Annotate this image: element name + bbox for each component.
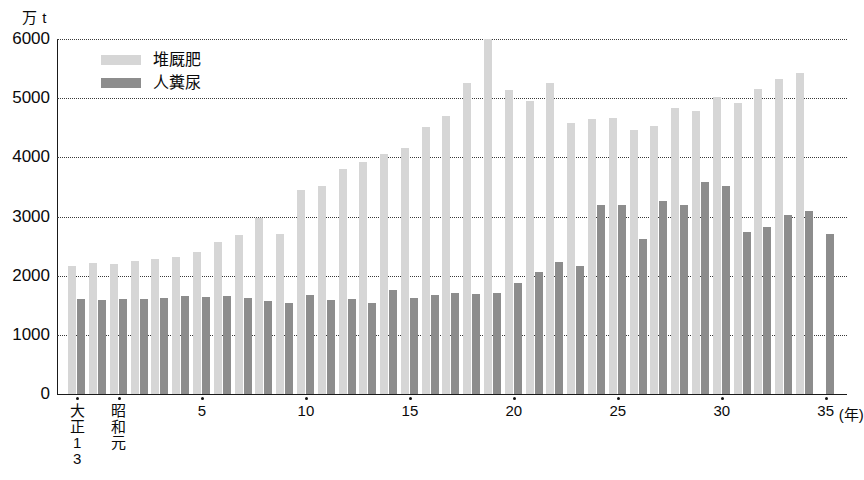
bar-taikyuhi <box>546 83 554 394</box>
bar-jinpunnyo <box>202 297 210 394</box>
bar-jinpunnyo <box>264 301 272 394</box>
x-axis-tick-label: 15 <box>393 403 427 419</box>
bar-taikyuhi <box>276 234 284 394</box>
bar-taikyuhi <box>775 79 783 394</box>
bar-jinpunnyo <box>784 215 792 394</box>
bar-group <box>817 39 835 394</box>
bar-group <box>588 39 606 394</box>
bar-taikyuhi <box>567 123 575 394</box>
x-axis-tick-label: 30 <box>705 403 739 419</box>
bar-taikyuhi <box>131 261 139 394</box>
bar-jinpunnyo <box>576 266 584 394</box>
bar-taikyuhi <box>151 259 159 394</box>
y-axis-unit-label: 万 t <box>22 6 47 27</box>
x-axis-tick <box>118 397 121 400</box>
bar-group <box>422 39 440 394</box>
bar-jinpunnyo <box>77 299 85 394</box>
bar-taikyuhi <box>609 118 617 394</box>
bar-taikyuhi <box>339 169 347 394</box>
bar-taikyuhi <box>526 101 534 394</box>
bar-taikyuhi <box>380 154 388 394</box>
bar-group <box>442 39 460 394</box>
bar-taikyuhi <box>734 103 742 394</box>
x-axis: 大正13昭和元5101520253035(年) <box>57 394 847 480</box>
legend-item-taikyuhi: 堆厩肥 <box>101 50 201 69</box>
bar-taikyuhi <box>255 218 263 394</box>
bar-jinpunnyo <box>472 294 480 394</box>
legend-label: 堆厩肥 <box>153 52 201 68</box>
bar-group <box>754 39 772 394</box>
bar-taikyuhi <box>796 73 804 394</box>
x-axis-unit-label: (年) <box>839 403 864 424</box>
bar-jinpunnyo <box>181 296 189 394</box>
bar-taikyuhi <box>401 148 409 394</box>
bar-taikyuhi <box>588 119 596 394</box>
bar-jinpunnyo <box>368 303 376 394</box>
bar-jinpunnyo <box>451 293 459 394</box>
bar-jinpunnyo <box>119 299 127 394</box>
x-axis-tick <box>513 397 516 400</box>
x-axis-tick <box>825 397 828 400</box>
bar-group <box>692 39 710 394</box>
x-axis-tick-label: 25 <box>601 403 635 419</box>
bar-group <box>463 39 481 394</box>
x-axis-tick-label: 35 <box>809 403 843 419</box>
bar-taikyuhi <box>754 89 762 394</box>
bar-jinpunnyo <box>680 205 688 394</box>
bar-jinpunnyo <box>244 298 252 394</box>
x-axis-tick-label: 10 <box>289 403 323 419</box>
bar-group <box>276 39 294 394</box>
bar-taikyuhi <box>630 130 638 394</box>
bar-taikyuhi <box>297 190 305 394</box>
bar-jinpunnyo <box>618 205 626 394</box>
x-axis-tick <box>617 397 620 400</box>
bar-group <box>401 39 419 394</box>
bar-taikyuhi <box>463 83 471 394</box>
legend-swatch-icon <box>101 78 141 88</box>
bar-jinpunnyo <box>98 300 106 394</box>
bar-jinpunnyo <box>743 232 751 394</box>
bar-jinpunnyo <box>410 298 418 394</box>
bar-jinpunnyo <box>639 239 647 394</box>
bar-taikyuhi <box>650 126 658 394</box>
bar-jinpunnyo <box>722 186 730 394</box>
bar-jinpunnyo <box>431 295 439 394</box>
x-axis-tick <box>305 397 308 400</box>
x-axis-tick <box>721 397 724 400</box>
x-axis-tick <box>409 397 412 400</box>
bar-jinpunnyo <box>555 262 563 394</box>
bar-jinpunnyo <box>535 272 543 394</box>
bar-group <box>630 39 648 394</box>
bar-group <box>380 39 398 394</box>
legend-label: 人糞尿 <box>153 75 201 91</box>
bar-group <box>734 39 752 394</box>
bar-group <box>526 39 544 394</box>
bar-jinpunnyo <box>160 298 168 394</box>
bar-jinpunnyo <box>285 303 293 394</box>
legend-swatch-icon <box>101 55 141 65</box>
bar-taikyuhi <box>68 266 76 394</box>
bar-jinpunnyo <box>223 296 231 394</box>
bar-group <box>318 39 336 394</box>
bar-jinpunnyo <box>140 299 148 394</box>
y-axis-tick-label: 2000 <box>2 267 50 284</box>
bar-taikyuhi <box>89 263 97 394</box>
bar-group <box>339 39 357 394</box>
bar-group <box>214 39 232 394</box>
bar-jinpunnyo <box>659 201 667 394</box>
bar-group <box>609 39 627 394</box>
bar-jinpunnyo <box>701 182 709 394</box>
bar-group <box>297 39 315 394</box>
bar-taikyuhi <box>172 257 180 394</box>
bar-taikyuhi <box>442 116 450 394</box>
bar-group <box>68 39 86 394</box>
bar-taikyuhi <box>671 108 679 394</box>
bar-group <box>671 39 689 394</box>
bar-taikyuhi <box>359 162 367 394</box>
bar-jinpunnyo <box>805 211 813 394</box>
y-axis-tick-label: 6000 <box>2 30 50 47</box>
bar-jinpunnyo <box>348 299 356 394</box>
y-axis-tick-label: 0 <box>2 385 50 402</box>
bar-taikyuhi <box>692 111 700 394</box>
